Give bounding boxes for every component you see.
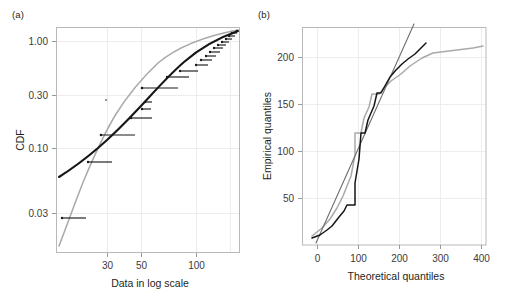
panel-b-ytick-3: 150 bbox=[277, 99, 294, 110]
panel-a-tag: (a) bbox=[12, 9, 24, 20]
panel-b-xtick-3: 200 bbox=[391, 253, 408, 264]
panel-a-ytick-2: 0.30 bbox=[29, 90, 49, 101]
panel-a-ytick-4: 0.03 bbox=[29, 208, 49, 219]
panel-b-ytick-1: 50 bbox=[283, 193, 295, 204]
panel-a-ylabel: CDF bbox=[14, 129, 26, 151]
panel-a-ecdf-steps bbox=[61, 30, 239, 220]
panel-b-gray-step bbox=[312, 46, 483, 236]
panel-a-ytick-1: 1.00 bbox=[29, 36, 49, 47]
panel-a-xtick-2: 50 bbox=[136, 260, 148, 271]
panel-a-xtick-3: 100 bbox=[188, 260, 205, 271]
panel-a-frame bbox=[57, 28, 240, 253]
panel-a-plot: 1.00 0.30 0.10 0.03 30 50 100 Data in lo… bbox=[0, 0, 254, 296]
panel-a-gridlines bbox=[56, 27, 240, 253]
panel-b-xtick-2: 100 bbox=[350, 253, 367, 264]
panel-b-y-ticks: 200 150 100 50 bbox=[277, 52, 302, 204]
panel-a-xlabel: Data in log scale bbox=[111, 277, 189, 289]
panel-a-x-ticks: 30 50 100 bbox=[102, 253, 205, 271]
panel-b-plot: 200 150 100 50 0 100 200 300 400 Theoret… bbox=[254, 0, 508, 296]
panel-b-xtick-1: 0 bbox=[315, 253, 321, 264]
panel-b-ytick-2: 100 bbox=[277, 146, 294, 157]
panel-a-ytick-3: 0.10 bbox=[29, 143, 49, 154]
panel-a-xtick-1: 30 bbox=[102, 260, 114, 271]
panel-b-xlabel: Theoretical quantiles bbox=[348, 270, 445, 282]
panel-b-xtick-4: 300 bbox=[432, 253, 449, 264]
figure-container: (a) bbox=[0, 0, 508, 296]
panel-b-tag: (b) bbox=[258, 9, 270, 20]
panel-b-x-ticks: 0 100 200 300 400 bbox=[315, 245, 491, 264]
panel-b-black-step bbox=[312, 43, 426, 238]
panel-a-y-ticks: 1.00 0.30 0.10 0.03 bbox=[29, 36, 56, 219]
panel-b-xtick-5: 400 bbox=[473, 253, 490, 264]
panel-a: (a) bbox=[0, 0, 254, 296]
panel-b: (b) bbox=[254, 0, 508, 296]
panel-b-ytick-4: 200 bbox=[277, 52, 294, 63]
panel-b-ylabel: Empirical quantiles bbox=[261, 92, 273, 180]
panel-a-black-curve bbox=[59, 31, 238, 177]
